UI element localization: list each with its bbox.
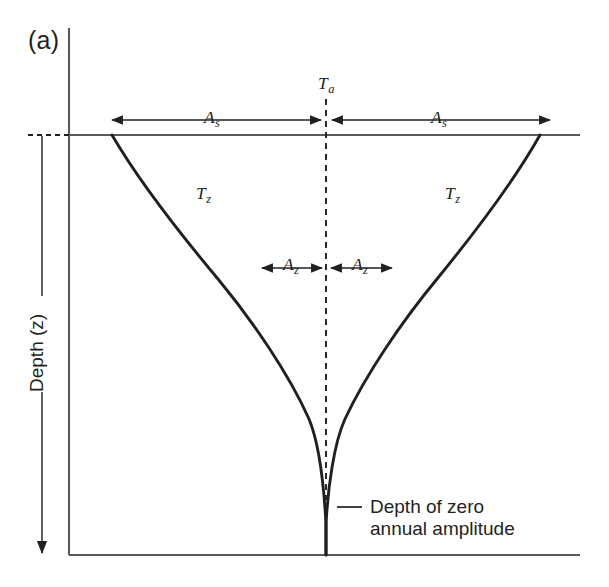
zero-amplitude-callout-line2: annual amplitude	[370, 518, 515, 539]
surface-amplitude-label-left: As	[204, 108, 220, 130]
temperature-curve-label-right: Tz	[445, 184, 460, 206]
temperature-envelope-right-curve	[326, 135, 540, 555]
depth-amplitude-symbol-left: A	[283, 254, 294, 274]
surface-amplitude-subscript-right: s	[442, 116, 447, 130]
temperature-curve-symbol-left: T	[196, 183, 206, 203]
temperature-curve-label-left: Tz	[196, 184, 211, 206]
surface-amplitude-symbol-left: A	[204, 107, 215, 127]
surface-amplitude-symbol-right: A	[431, 107, 442, 127]
panel-label: (a)	[28, 26, 59, 54]
zero-amplitude-callout: Depth of zeroannual amplitude	[370, 496, 515, 541]
surface-amplitude-label-right: As	[431, 108, 447, 130]
depth-axis-label: Depth (z)	[26, 314, 47, 392]
depth-amplitude-label-right: Az	[352, 255, 368, 277]
depth-amplitude-subscript-left: z	[294, 263, 299, 277]
zero-amplitude-callout-line1: Depth of zero	[370, 496, 484, 517]
depth-amplitude-symbol-right: A	[352, 254, 363, 274]
temperature-curve-subscript-right: z	[455, 192, 460, 206]
depth-amplitude-label-left: Az	[283, 255, 299, 277]
mean-annual-temperature-symbol: T	[318, 73, 328, 93]
temperature-curve-subscript-left: z	[206, 192, 211, 206]
mean-annual-temperature-subscript: a	[328, 82, 334, 96]
mean-annual-temperature-label: Ta	[318, 74, 334, 96]
surface-amplitude-subscript-left: s	[215, 116, 220, 130]
depth-amplitude-subscript-right: z	[363, 263, 368, 277]
temperature-envelope-left-curve	[112, 135, 326, 555]
figure-ground-temperature-envelope: (a) Depth (z) Ta As As Az Az Tz Tz Depth…	[0, 0, 609, 587]
diagram-canvas	[0, 0, 609, 587]
temperature-curve-symbol-right: T	[445, 183, 455, 203]
